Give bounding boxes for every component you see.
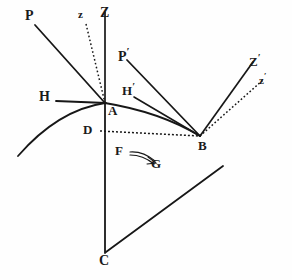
dotted-horizontal-DB [100,131,200,136]
label-P-prime-base: P [118,49,127,64]
label-Z-vertical: Z [100,6,109,20]
ray-Pprime-B [127,60,200,136]
label-F-arrow-tail: F [115,144,123,157]
label-H-prime-mark: ′ [132,81,135,92]
label-z-prime-mark: ′ [264,71,266,81]
label-P-prime-mark: ′ [127,45,130,57]
ray-C-through-B-extended [106,166,223,252]
label-Z-prime-mark: ′ [258,52,261,63]
label-Z-prime: Z′ [249,53,261,68]
label-C-bottom: C [99,254,109,268]
label-H-prime: H′ [122,82,135,97]
label-G-arrow-head: G [151,157,161,170]
normal-B-Zprime [200,62,253,136]
geometric-diagram-figure: z Z P H A D F G C B P′ H′ Z′ z′ [0,0,292,280]
horizontal-line-HA [56,101,106,103]
label-P-prime: P′ [118,46,130,64]
label-P-upper-left: P [25,9,34,23]
label-H-left: H [39,90,50,104]
label-H-prime-base: H [122,83,132,98]
dotted-normal-B-zprime [200,80,263,136]
label-D-left: D [83,123,92,136]
label-Z-prime-base: Z [249,54,258,69]
label-A-vertex: A [108,104,117,117]
label-B-right: B [198,139,207,152]
label-z-prime: z′ [259,72,266,86]
diagram-canvas [0,0,292,280]
label-z-upper-left: z [78,9,83,20]
